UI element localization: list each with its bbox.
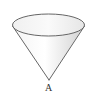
apex-label: A bbox=[45, 82, 52, 93]
cone-diagram bbox=[0, 0, 92, 94]
cone-top-ellipse bbox=[13, 14, 85, 36]
apex-point bbox=[48, 79, 49, 80]
